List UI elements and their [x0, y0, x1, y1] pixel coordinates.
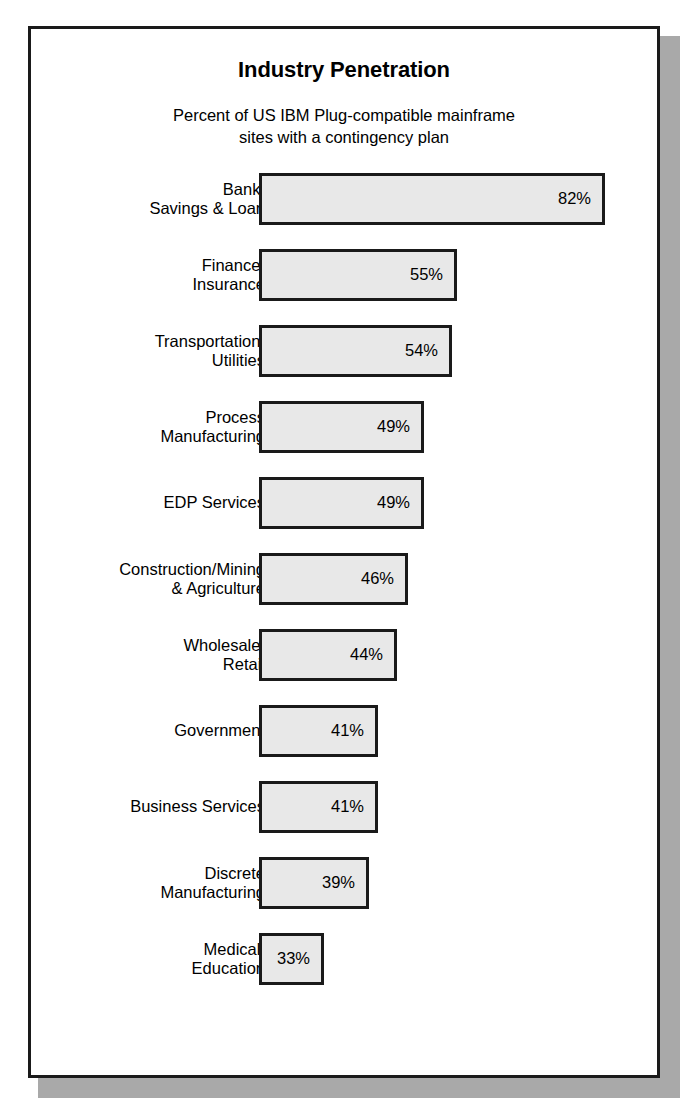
bar-category-label: Transportation/ Utilities	[155, 331, 265, 370]
bar-category-label: Finance/ Insurance	[193, 255, 265, 294]
bar-value-label: 33%	[277, 949, 321, 968]
bar-value-label: 44%	[350, 645, 394, 664]
bar: 33%	[259, 933, 324, 985]
chart-subtitle-line-2: sites with a contingency plan	[101, 127, 587, 149]
bar-row: Finance/ Insurance55%	[31, 249, 657, 301]
bar-value-label: 41%	[331, 721, 375, 740]
bar-value-label: 49%	[377, 493, 421, 512]
bar-value-label: 54%	[405, 341, 449, 360]
bar-category-label: Business Services	[130, 797, 265, 816]
bar: 39%	[259, 857, 369, 909]
bar-track: 44%	[259, 629, 397, 681]
bar-category-label: Government	[174, 721, 265, 740]
bar-row: Government41%	[31, 705, 657, 757]
bar: 49%	[259, 401, 424, 453]
bar-chart-plot-area: Bank/ Savings & Loan82%Finance/ Insuranc…	[31, 173, 657, 985]
bar-value-label: 49%	[377, 417, 421, 436]
bar-category-label: EDP Services	[164, 493, 265, 512]
bar-value-label: 46%	[361, 569, 405, 588]
bar-row: EDP Services49%	[31, 477, 657, 529]
chart-subtitle-line-1: Percent of US IBM Plug-compatible mainfr…	[101, 105, 587, 127]
bar-value-label: 39%	[322, 873, 366, 892]
bar-row: Bank/ Savings & Loan82%	[31, 173, 657, 225]
bar: 41%	[259, 705, 378, 757]
bar-category-label: Construction/Mining & Agriculture	[119, 559, 265, 598]
bar-track: 46%	[259, 553, 408, 605]
bar-category-label: Bank/ Savings & Loan	[149, 179, 265, 218]
bar-track: 82%	[259, 173, 605, 225]
bar: 55%	[259, 249, 457, 301]
bar-value-label: 82%	[558, 189, 602, 208]
bar-value-label: 55%	[410, 265, 454, 284]
bar: 82%	[259, 173, 605, 225]
bar-row: Business Services41%	[31, 781, 657, 833]
bar: 46%	[259, 553, 408, 605]
bar: 44%	[259, 629, 397, 681]
bar-row: Process Manufacturing49%	[31, 401, 657, 453]
chart-title: Industry Penetration	[31, 57, 657, 83]
bar: 41%	[259, 781, 378, 833]
bar-row: Medical/ Education33%	[31, 933, 657, 985]
bar-row: Transportation/ Utilities54%	[31, 325, 657, 377]
bar-track: 54%	[259, 325, 452, 377]
bar-track: 41%	[259, 781, 378, 833]
bar: 54%	[259, 325, 452, 377]
bar-category-label: Wholesale/ Retail	[183, 635, 265, 674]
bar-row: Discrete Manufacturing39%	[31, 857, 657, 909]
chart-subtitle: Percent of US IBM Plug-compatible mainfr…	[31, 105, 657, 149]
bar-row: Construction/Mining & Agriculture46%	[31, 553, 657, 605]
bar-track: 39%	[259, 857, 369, 909]
bar-track: 41%	[259, 705, 378, 757]
bar-row: Wholesale/ Retail44%	[31, 629, 657, 681]
bar-track: 33%	[259, 933, 324, 985]
bar: 49%	[259, 477, 424, 529]
bar-category-label: Process Manufacturing	[160, 407, 265, 446]
bar-track: 49%	[259, 401, 424, 453]
bar-category-label: Medical/ Education	[192, 939, 265, 978]
bar-track: 49%	[259, 477, 424, 529]
chart-figure-frame: Industry Penetration Percent of US IBM P…	[28, 26, 660, 1078]
bar-category-label: Discrete Manufacturing	[160, 863, 265, 902]
bar-value-label: 41%	[331, 797, 375, 816]
bar-track: 55%	[259, 249, 457, 301]
